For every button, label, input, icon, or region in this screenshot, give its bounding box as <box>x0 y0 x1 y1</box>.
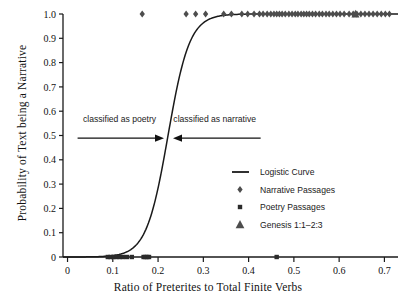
chart-canvas: 00.10.20.30.40.50.60.70.80.91.0 00.10.20… <box>0 0 416 301</box>
narrative-point <box>239 11 244 18</box>
x-tick-label: 0 <box>65 265 70 276</box>
x-tick-label: 0.5 <box>288 265 301 276</box>
annotation-label: classified as narrative <box>173 114 256 124</box>
x-tick-label: 0.7 <box>378 265 391 276</box>
narrative-point <box>229 11 234 18</box>
arrow-head-left <box>173 135 182 142</box>
y-tick-label: 1.0 <box>44 9 57 20</box>
y-tick-label: 0.5 <box>44 130 57 141</box>
y-tick-label: 0.4 <box>44 154 57 165</box>
y-axis-title: Probability of Text being a Narrative <box>16 4 28 262</box>
poetry-point <box>125 255 129 259</box>
narrative-point <box>245 11 250 18</box>
narrative-point <box>387 11 392 18</box>
y-tick-label: 0 <box>51 252 56 263</box>
narrative-point <box>193 11 198 18</box>
narrative-point <box>203 11 208 18</box>
poetry-point <box>274 255 278 259</box>
y-tick-label: 0.1 <box>44 227 57 238</box>
legend-label: Genesis 1:1–2:3 <box>260 220 323 230</box>
logistic-classification-chart: 00.10.20.30.40.50.60.70.80.91.0 00.10.20… <box>0 0 416 301</box>
narrative-point <box>251 11 256 18</box>
narrative-point <box>341 11 346 18</box>
legend-triangle-swatch <box>236 220 245 228</box>
legend-label: Narrative Passages <box>260 185 335 195</box>
y-tick-label: 0.9 <box>44 33 57 44</box>
arrow-head-right <box>155 135 164 142</box>
legend-square-swatch <box>238 205 242 209</box>
logistic-curve <box>63 14 398 257</box>
x-tick-label: 0.2 <box>152 265 165 276</box>
poetry-point <box>130 255 134 259</box>
annotation-label: classified as poetry <box>83 114 157 124</box>
x-tick-label: 0.4 <box>242 265 255 276</box>
narrative-point <box>183 11 188 18</box>
x-tick-label: 0.6 <box>333 265 346 276</box>
x-tick-label: 0.1 <box>107 265 120 276</box>
legend-diamond-swatch <box>237 186 242 193</box>
legend-label: Logistic Curve <box>260 167 315 177</box>
x-axis-ticks: 00.10.20.30.40.50.60.7 <box>65 257 391 276</box>
chart-legend: Logistic CurveNarrative PassagesPoetry P… <box>232 167 335 230</box>
y-tick-label: 0.3 <box>44 179 57 190</box>
y-tick-label: 0.2 <box>44 203 57 214</box>
x-tick-label: 0.3 <box>197 265 210 276</box>
narrative-point <box>140 11 145 18</box>
legend-label: Poetry Passages <box>260 202 325 212</box>
poetry-point <box>147 255 151 259</box>
x-axis-title: Ratio of Preterites to Total Finite Verb… <box>0 281 416 293</box>
y-tick-label: 0.7 <box>44 82 57 93</box>
y-axis-ticks: 00.10.20.30.40.50.60.70.80.91.0 <box>44 9 64 263</box>
y-tick-label: 0.6 <box>44 106 57 117</box>
y-tick-label: 0.8 <box>44 57 57 68</box>
poetry-point <box>121 255 125 259</box>
